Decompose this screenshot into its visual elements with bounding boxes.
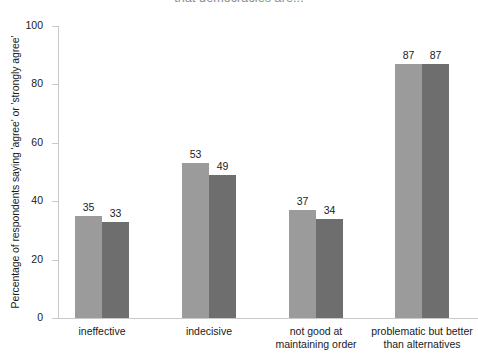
y-tick-label-40: 40 xyxy=(31,194,43,206)
bar-value-label: 34 xyxy=(324,204,336,216)
category-label-2: not good at maintaining order xyxy=(264,325,369,351)
y-tick-60: 60 xyxy=(52,143,58,144)
category-label-0: ineffective xyxy=(50,325,155,338)
bar-value-label: 33 xyxy=(110,207,122,219)
category-label-1: indecisive xyxy=(157,325,262,338)
y-tick-label-0: 0 xyxy=(37,311,43,323)
category-label-3: problematic but better than alternatives xyxy=(370,325,475,351)
y-tick-80: 80 xyxy=(52,84,58,85)
bar-value-label: 53 xyxy=(190,148,202,160)
y-axis-line xyxy=(58,26,59,318)
plot-area: 020406080100 3533534937348787 ineffectiv… xyxy=(58,26,478,318)
y-tick-0: 0 xyxy=(52,318,58,319)
bar-value-label: 87 xyxy=(430,49,442,61)
bar-series-a-2: 37 xyxy=(289,210,316,318)
y-tick-label-100: 100 xyxy=(25,19,43,31)
bar-series-a-0: 35 xyxy=(75,216,102,318)
bar-value-label: 49 xyxy=(217,160,229,172)
y-tick-label-20: 20 xyxy=(31,253,43,265)
y-tick-label-80: 80 xyxy=(31,77,43,89)
y-tick-100: 100 xyxy=(52,26,58,27)
bar-series-a-1: 53 xyxy=(182,163,209,318)
bar-chart: that democracies are... Percentage of re… xyxy=(0,0,478,353)
y-axis-title: Percentage of respondents saying 'agree'… xyxy=(9,22,21,322)
x-axis-line xyxy=(58,318,478,319)
bar-series-b-1: 49 xyxy=(209,175,236,318)
y-tick-20: 20 xyxy=(52,260,58,261)
bar-series-b-0: 33 xyxy=(102,222,129,318)
chart-title: that democracies are... xyxy=(0,0,478,6)
bar-value-label: 37 xyxy=(297,195,309,207)
y-tick-40: 40 xyxy=(52,201,58,202)
bar-value-label: 35 xyxy=(83,201,95,213)
y-tick-label-60: 60 xyxy=(31,136,43,148)
bar-series-b-3: 87 xyxy=(422,64,449,318)
bar-series-b-2: 34 xyxy=(316,219,343,318)
bar-series-a-3: 87 xyxy=(395,64,422,318)
bar-value-label: 87 xyxy=(403,49,415,61)
